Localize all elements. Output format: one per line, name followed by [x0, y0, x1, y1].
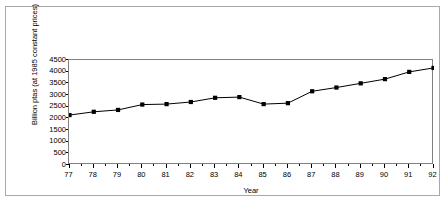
x-tick-label: 79 — [105, 170, 129, 180]
y-tick-label: 0 — [34, 160, 66, 169]
series-line — [70, 68, 434, 115]
x-tick-label: 87 — [299, 170, 323, 180]
y-tick-label: 3500 — [34, 78, 66, 87]
y-tick-label: 2000 — [34, 113, 66, 122]
x-tick-mark-minor — [323, 164, 324, 166]
x-tick-mark — [408, 164, 409, 168]
x-tick-mark-minor — [396, 164, 397, 166]
data-point-marker — [262, 102, 266, 106]
x-tick-mark-minor — [153, 164, 154, 166]
data-point-marker — [140, 102, 144, 106]
x-tick-mark-minor — [81, 164, 82, 166]
plot-area — [68, 59, 433, 164]
data-point-marker — [237, 95, 241, 99]
data-point-marker — [407, 70, 411, 74]
data-point-marker — [334, 85, 338, 89]
x-tick-label: 92 — [421, 170, 445, 180]
x-tick-mark — [238, 164, 239, 168]
data-point-marker — [189, 100, 193, 104]
x-tick-mark — [93, 164, 94, 168]
x-tick-mark — [117, 164, 118, 168]
x-tick-mark — [190, 164, 191, 168]
data-point-marker — [286, 101, 290, 105]
x-axis-tick-labels: 77787980818283848586878889909192 — [68, 170, 434, 182]
x-tick-label: 77 — [57, 170, 81, 180]
x-axis-tick-marks — [68, 164, 434, 168]
x-tick-mark — [287, 164, 288, 168]
x-tick-mark-minor — [129, 164, 130, 166]
x-tick-label: 84 — [226, 170, 250, 180]
x-tick-mark-minor — [275, 164, 276, 166]
x-tick-mark — [166, 164, 167, 168]
data-point-marker — [92, 110, 96, 114]
x-tick-mark-minor — [372, 164, 373, 166]
x-tick-mark-minor — [105, 164, 106, 166]
x-tick-label: 86 — [275, 170, 299, 180]
y-axis-tick-labels: 050010001500200025003000350040004500 — [34, 53, 66, 170]
data-point-marker — [359, 81, 363, 85]
data-point-marker — [431, 66, 434, 70]
x-tick-label: 82 — [178, 170, 202, 180]
x-tick-label: 80 — [129, 170, 153, 180]
y-tick-label: 1000 — [34, 136, 66, 145]
x-tick-mark — [141, 164, 142, 168]
x-tick-mark — [360, 164, 361, 168]
x-tick-label: 81 — [154, 170, 178, 180]
line-series-svg — [69, 60, 434, 165]
data-point-marker — [310, 89, 314, 93]
x-tick-mark — [263, 164, 264, 168]
x-tick-mark-minor — [202, 164, 203, 166]
y-tick-label: 3000 — [34, 90, 66, 99]
x-tick-label: 83 — [202, 170, 226, 180]
y-tick-label: 4000 — [34, 66, 66, 75]
y-tick-label: 4500 — [34, 55, 66, 64]
chart-screenshot: Billion ptas (at 1985 constant prices) 0… — [0, 0, 447, 205]
x-tick-mark — [214, 164, 215, 168]
x-tick-label: 88 — [323, 170, 347, 180]
x-tick-mark — [311, 164, 312, 168]
x-tick-label: 90 — [372, 170, 396, 180]
x-tick-mark — [384, 164, 385, 168]
x-tick-mark — [335, 164, 336, 168]
data-point-marker — [383, 77, 387, 81]
x-tick-mark-minor — [226, 164, 227, 166]
x-axis-title: Year — [68, 186, 434, 196]
y-tick-label: 2500 — [34, 101, 66, 110]
data-point-marker — [69, 113, 72, 117]
x-tick-mark-minor — [420, 164, 421, 166]
data-point-marker — [116, 108, 120, 112]
x-tick-mark-minor — [251, 164, 252, 166]
x-tick-label: 78 — [81, 170, 105, 180]
x-tick-label: 89 — [348, 170, 372, 180]
y-tick-label: 500 — [34, 148, 66, 157]
x-tick-mark — [69, 164, 70, 168]
x-tick-mark-minor — [299, 164, 300, 166]
x-tick-mark — [433, 164, 434, 168]
data-point-marker — [213, 96, 217, 100]
y-tick-label: 1500 — [34, 125, 66, 134]
x-tick-label: 91 — [396, 170, 420, 180]
data-point-marker — [164, 102, 168, 106]
x-tick-mark-minor — [178, 164, 179, 166]
x-tick-mark-minor — [348, 164, 349, 166]
x-tick-label: 85 — [251, 170, 275, 180]
figure-frame: Billion ptas (at 1985 constant prices) 0… — [5, 6, 440, 196]
